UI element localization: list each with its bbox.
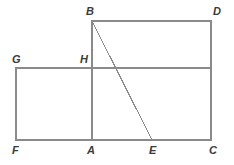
vertex-label-a: A bbox=[87, 145, 95, 156]
vertex-label-e: E bbox=[149, 145, 156, 156]
vertex-label-c: C bbox=[209, 145, 217, 156]
vertex-label-g: G bbox=[12, 54, 21, 65]
geometry-canvas bbox=[0, 0, 234, 165]
segment-be bbox=[92, 21, 152, 140]
vertex-label-b: B bbox=[86, 6, 94, 17]
vertex-label-f: F bbox=[12, 145, 19, 156]
segment-layer bbox=[16, 21, 211, 140]
vertex-label-d: D bbox=[213, 6, 221, 17]
geometry-figure: BDGHFAEC bbox=[0, 0, 234, 165]
vertex-label-h: H bbox=[80, 54, 88, 65]
